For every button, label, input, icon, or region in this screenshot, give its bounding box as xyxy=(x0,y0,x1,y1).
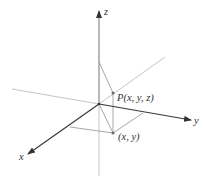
point-projection-label: (x, y) xyxy=(118,131,140,143)
y-axis-negative-line xyxy=(12,89,99,104)
x-axis-label: x xyxy=(18,151,24,162)
origin-to-projection-line xyxy=(99,104,113,133)
z-to-p-line xyxy=(99,62,113,93)
z-axis-label: z xyxy=(103,6,108,17)
projection-to-x-line xyxy=(70,127,113,133)
point-p-label: P(x, y, z) xyxy=(116,92,154,104)
coordinate-diagram: z y x P(x, y, z) (x, y) xyxy=(0,0,204,183)
point-p xyxy=(112,92,115,95)
x-axis xyxy=(28,104,99,154)
point-projection xyxy=(112,132,115,135)
origin-point xyxy=(98,103,101,106)
y-axis-label: y xyxy=(193,115,199,126)
projection-to-y-line xyxy=(113,113,143,133)
